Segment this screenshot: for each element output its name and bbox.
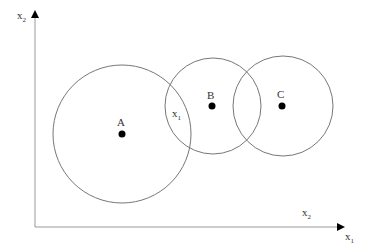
point-a: [119, 131, 126, 138]
x-axis-caption: x2: [302, 206, 312, 221]
label-c: C: [277, 88, 284, 100]
label-b: B: [207, 89, 214, 101]
y-axis-label: x2: [17, 9, 27, 24]
diagram-canvas: A B C x1 x2 x2 x1: [0, 0, 371, 250]
label-a: A: [117, 116, 125, 128]
point-b: [209, 103, 216, 110]
point-c: [279, 103, 286, 110]
overlap-label: x1: [172, 107, 182, 122]
x-axis-label: x1: [345, 230, 355, 245]
